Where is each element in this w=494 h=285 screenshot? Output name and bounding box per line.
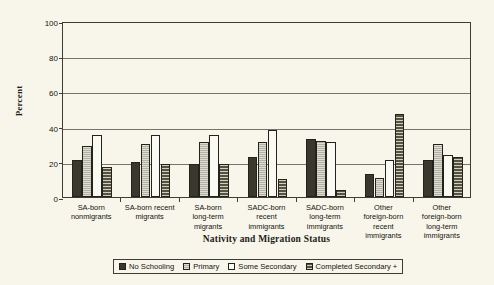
x-axis-category-label: SA-bornlong-termmigrants [176,203,240,231]
bar [433,144,443,197]
bar [258,142,268,197]
legend-label: No Schooling [129,262,174,271]
x-axis-tickmark [120,198,121,202]
bar [326,142,336,197]
x-axis-tickmark [237,198,238,202]
category-label-line: Other [410,203,474,212]
chart-figure: Percent 020406080100 SA-bornnonmigrantsS… [0,0,494,285]
x-axis-tickmark [296,198,297,202]
legend-item[interactable]: Some Secondary [228,262,296,271]
category-label-line: long-term [293,212,357,221]
chart-legend: No SchoolingPrimarySome SecondaryComplet… [113,259,403,274]
category-label-line: migrants [176,222,240,231]
x-axis-category-label: SADC-bornlong-termimmigrants [293,203,357,231]
bar [141,144,151,197]
category-label-line: foreign-born [410,212,474,221]
category-label-line: immigrants [293,222,357,231]
bar [102,167,112,197]
bar [443,155,453,197]
bar [131,162,141,197]
x-axis-tickmark [179,198,180,202]
category-label-line: SA-born [176,203,240,212]
category-label-line: foreign-born [351,212,415,221]
bar [365,174,375,197]
x-axis-tickmark [354,198,355,202]
bar [306,139,316,197]
bar-group [297,23,355,197]
category-label-line: recent [351,222,415,231]
category-label-line: recent [234,212,298,221]
bar-groups [63,23,470,197]
bar [209,135,219,197]
bar-group [238,23,296,197]
legend-item[interactable]: Completed Secondary + [306,262,398,271]
category-label-line: nonmigrants [59,212,123,221]
bar-group [355,23,413,197]
legend-label: Completed Secondary + [316,262,398,271]
bar [199,142,209,197]
legend-item[interactable]: No Schooling [119,262,174,271]
category-label-line: long-term [176,212,240,221]
bar [423,160,433,197]
legend-swatch [306,263,313,270]
category-label-line: immigrants [234,222,298,231]
bar [151,135,161,197]
legend-swatch [228,263,235,270]
category-label-line: long-term [410,222,474,231]
x-axis-category-label: SADC-bornrecentimmigrants [234,203,298,231]
category-label-line: SA-born recent [117,203,181,212]
x-axis-category-label: SA-bornnonmigrants [59,203,123,222]
category-label-line: SADC-born [234,203,298,212]
category-label-line: SADC-born [293,203,357,212]
x-axis-category-label: SA-born recentmigrants [117,203,181,222]
bar [336,190,346,197]
bar [453,157,463,197]
legend-label: Primary [193,262,219,271]
bar [161,164,171,197]
bar-group [121,23,179,197]
bar [219,164,229,197]
y-axis-title: Percent [14,61,24,141]
legend-swatch [183,263,190,270]
x-axis-tickmark [413,198,414,202]
bar-group [63,23,121,197]
bar [189,164,199,197]
legend-item[interactable]: Primary [183,262,219,271]
y-axis-tickmark [59,199,63,200]
legend-swatch [119,263,126,270]
bar [92,135,102,197]
bar [278,179,288,197]
bar [72,160,82,197]
category-label-line: SA-born [59,203,123,212]
bar-group [414,23,472,197]
category-label-line: Other [351,203,415,212]
bar-group [180,23,238,197]
bar [248,157,258,197]
bar [395,114,405,197]
bar [82,146,92,197]
bar [268,130,278,197]
x-axis-title: Nativity and Migration Status [62,234,471,244]
category-label-line: migrants [117,212,181,221]
legend-label: Some Secondary [238,262,296,271]
bar [316,141,326,197]
bar [375,178,385,197]
bar [385,160,395,197]
plot-area: 020406080100 [62,22,471,198]
